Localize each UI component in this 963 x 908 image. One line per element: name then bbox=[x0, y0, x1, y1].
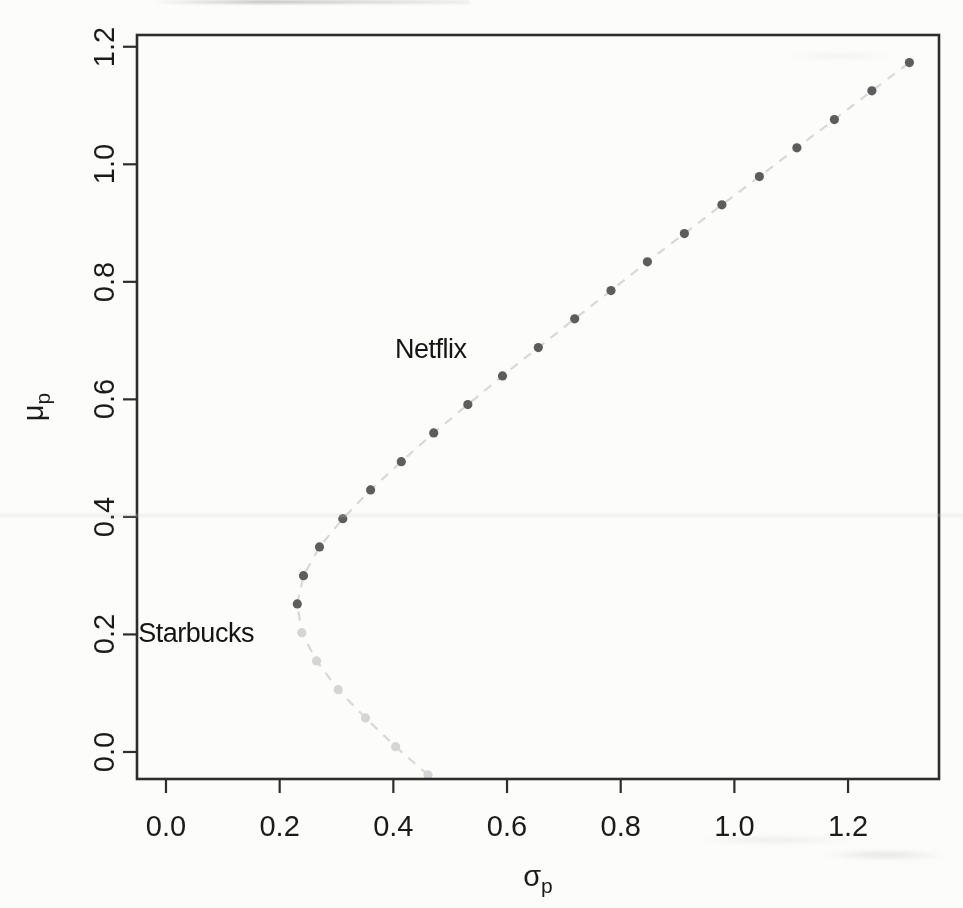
efficient-frontier-plot: 0.00.20.40.60.81.01.20.00.20.40.60.81.01… bbox=[0, 0, 963, 908]
frontier-point-efficient bbox=[397, 457, 406, 466]
y-tick-label-0.8: 0.8 bbox=[88, 262, 121, 302]
x-axis-title: σp bbox=[523, 860, 553, 898]
frontier-point-inefficient bbox=[334, 685, 343, 694]
x-axis-subscript: p bbox=[541, 874, 553, 897]
y-axis-subscript: p bbox=[31, 393, 54, 405]
frontier-point-efficient bbox=[293, 599, 302, 608]
frontier-point-efficient bbox=[498, 371, 507, 380]
frontier-point-efficient bbox=[680, 229, 689, 238]
frontier-point-efficient bbox=[570, 314, 579, 323]
y-tick-label-0.2: 0.2 bbox=[88, 614, 121, 654]
y-tick-label-0.6: 0.6 bbox=[88, 379, 121, 419]
x-tick-label-0.0: 0.0 bbox=[146, 810, 186, 843]
frontier-point-efficient bbox=[534, 343, 543, 352]
y-tick-label-1.0: 1.0 bbox=[88, 144, 121, 184]
x-tick-label-0.4: 0.4 bbox=[373, 810, 413, 843]
mu-symbol: μ bbox=[17, 404, 49, 421]
frontier-point-efficient bbox=[366, 485, 375, 494]
annotation-starbucks: Starbucks bbox=[138, 617, 254, 648]
frontier-point-efficient bbox=[830, 115, 839, 124]
frontier-point-efficient bbox=[315, 542, 324, 551]
y-tick-label-1.2: 1.2 bbox=[88, 27, 121, 67]
frontier-point-efficient bbox=[792, 143, 801, 152]
y-tick-label-0.0: 0.0 bbox=[88, 732, 121, 772]
y-axis-title: μp bbox=[17, 393, 55, 421]
frontier-point-efficient bbox=[867, 86, 876, 95]
frontier-point-efficient bbox=[463, 400, 472, 409]
frontier-point-efficient bbox=[755, 172, 764, 181]
frontier-point-efficient bbox=[338, 514, 347, 523]
screenshot-root: { "chart_data": { "type": "scatter", "ti… bbox=[0, 0, 963, 908]
sigma-symbol: σ bbox=[523, 860, 541, 892]
frontier-point-inefficient bbox=[297, 628, 306, 637]
y-tick-label-0.4: 0.4 bbox=[88, 497, 121, 537]
frontier-dashed-line bbox=[297, 63, 909, 775]
plot-frame bbox=[137, 35, 939, 779]
frontier-point-efficient bbox=[717, 200, 726, 209]
frontier-point-inefficient bbox=[361, 713, 370, 722]
frontier-point-efficient bbox=[643, 257, 652, 266]
x-tick-label-1.2: 1.2 bbox=[828, 810, 868, 843]
x-tick-label-1.0: 1.0 bbox=[714, 810, 754, 843]
x-tick-label-0.8: 0.8 bbox=[601, 810, 641, 843]
annotation-netflix: Netflix bbox=[395, 333, 467, 364]
frontier-point-efficient bbox=[905, 58, 914, 67]
frontier-point-efficient bbox=[429, 428, 438, 437]
frontier-point-efficient bbox=[299, 571, 308, 580]
frontier-point-inefficient bbox=[391, 742, 400, 751]
plot-canvas bbox=[0, 0, 963, 908]
x-tick-label-0.2: 0.2 bbox=[259, 810, 299, 843]
x-tick-label-0.6: 0.6 bbox=[487, 810, 527, 843]
frontier-point-inefficient bbox=[312, 656, 321, 665]
frontier-point-efficient bbox=[606, 286, 615, 295]
